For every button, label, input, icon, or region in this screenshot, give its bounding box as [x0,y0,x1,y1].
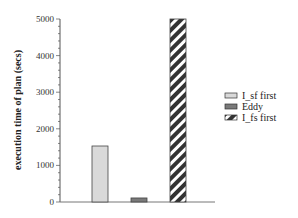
legend-swatch [225,115,237,120]
y-axis-title: execution time of plan (secs) [12,50,24,170]
legend: I_sf firstEddyI_fs first [225,90,276,123]
legend-swatch [225,93,237,98]
y-axis: 010002000300040005000 [36,14,215,207]
bars [92,19,186,202]
y-tick-label: 5000 [36,14,55,24]
bar-i-fs-first [170,19,186,202]
bar-eddy [131,198,147,202]
y-tick-label: 4000 [36,51,55,61]
legend-label: I_sf first [242,90,276,101]
legend-label: I_fs first [242,112,276,123]
y-tick-label: 3000 [36,87,55,97]
y-axis-label: execution time of plan (secs) [12,50,24,170]
legend-label: Eddy [242,101,263,112]
bar-i-sf-first [92,146,108,202]
bar-chart: 010002000300040005000 execution time of … [0,0,298,218]
y-tick-label: 2000 [36,124,55,134]
y-tick-label: 1000 [36,160,55,170]
legend-swatch [225,104,237,109]
y-tick-label: 0 [50,197,55,207]
